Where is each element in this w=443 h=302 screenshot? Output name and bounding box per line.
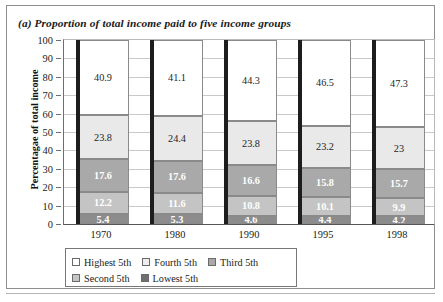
y-axis-tick-mark (56, 224, 61, 225)
legend-swatch-icon (142, 258, 150, 266)
bar-segment[interactable]: 23.2 (298, 126, 351, 169)
bar-segment[interactable]: 4.2 (372, 216, 425, 224)
bar-segment[interactable]: 17.6 (150, 161, 203, 193)
bar-left-shadow (76, 40, 80, 224)
legend-item-fourth-5th[interactable]: Fourth 5th (142, 257, 197, 268)
bar-value-label: 10.8 (242, 200, 260, 211)
bar-segment[interactable]: 23.8 (224, 121, 277, 165)
bar-value-label: 4.2 (393, 216, 406, 224)
bar-segment[interactable]: 23.8 (76, 115, 129, 159)
bar-value-label: 23.8 (242, 138, 260, 149)
legend-label: Second 5th (84, 273, 130, 284)
y-axis-tick-mark (56, 58, 61, 59)
bar-segment[interactable]: 9.9 (372, 198, 425, 216)
legend-label: Lowest 5th (153, 273, 199, 284)
y-axis-tick-label: 60 (43, 108, 53, 119)
legend-row: Second 5thLowest 5th (72, 270, 290, 286)
y-axis-tick-label: 50 (43, 127, 53, 138)
bar-value-label: 12.2 (94, 197, 112, 208)
bar-value-label: 5.3 (171, 214, 184, 224)
y-axis-tick-mark (56, 150, 61, 151)
bar-value-label: 9.9 (393, 202, 406, 213)
bar-column-1980[interactable]: 5.311.617.624.441.1 (150, 40, 203, 224)
bar-value-label: 23.2 (316, 141, 334, 152)
legend-label: Third 5th (220, 257, 258, 268)
y-axis-tick-label: 40 (43, 145, 53, 156)
bar-value-label: 46.5 (316, 77, 334, 88)
x-axis-tick-label-1980: 1980 (140, 229, 210, 240)
bar-segment[interactable]: 4.6 (224, 216, 277, 224)
chart-legend: Highest 5thFourth 5thThird 5thSecond 5th… (65, 248, 297, 287)
bar-value-label: 4.4 (319, 216, 332, 224)
bar-value-label: 5.4 (97, 214, 110, 224)
y-axis-tick-mark (56, 132, 61, 133)
bar-segment[interactable]: 12.2 (76, 192, 129, 214)
bar-segment[interactable]: 46.5 (298, 40, 351, 126)
bar-segment[interactable]: 47.3 (372, 40, 425, 127)
bar-segment[interactable]: 44.3 (224, 40, 277, 122)
legend-swatch-icon (72, 258, 80, 266)
y-axis-tick-mark (56, 77, 61, 78)
bar-value-label: 10.1 (316, 201, 334, 212)
bar-value-label: 41.1 (168, 72, 186, 83)
y-axis-tick-label: 100 (37, 35, 53, 46)
figure-frame: (a) Proportion of total income paid to f… (6, 5, 435, 289)
figure-underline (6, 293, 435, 294)
bar-value-label: 23.8 (94, 132, 112, 143)
y-axis-tick-label: 10 (43, 200, 53, 211)
bar-value-label: 15.7 (390, 178, 408, 189)
plot-area: 5.412.217.623.840.95.311.617.624.441.14.… (63, 39, 435, 225)
bar-segment[interactable]: 5.3 (150, 214, 203, 224)
bar-column-1995[interactable]: 4.410.115.823.246.5 (298, 40, 351, 224)
bar-left-shadow (150, 40, 154, 224)
x-axis-tick-label-1990: 1990 (214, 229, 284, 240)
bar-segment[interactable]: 16.6 (224, 165, 277, 196)
legend-item-lowest-5th[interactable]: Lowest 5th (141, 273, 199, 284)
bar-segment[interactable]: 15.8 (298, 168, 351, 197)
y-axis-tick-label: 20 (43, 182, 53, 193)
bar-value-label: 17.6 (94, 170, 112, 181)
legend-row: Highest 5thFourth 5thThird 5th (72, 254, 290, 270)
bar-segment[interactable]: 5.4 (76, 214, 129, 224)
bar-value-label: 15.8 (316, 177, 334, 188)
legend-label: Highest 5th (84, 257, 131, 268)
bar-segment[interactable]: 40.9 (76, 40, 129, 115)
legend-swatch-icon (208, 258, 216, 266)
bar-segment[interactable]: 23 (372, 127, 425, 169)
bar-left-shadow (224, 40, 228, 224)
y-axis-tick-label: 0 (48, 219, 53, 230)
bar-segment[interactable]: 11.6 (150, 193, 203, 214)
x-axis-tick-label-1998: 1998 (362, 229, 432, 240)
bar-left-shadow (298, 40, 302, 224)
x-axis-tick-label-1995: 1995 (288, 229, 358, 240)
bar-segment[interactable]: 4.4 (298, 216, 351, 224)
bar-left-shadow (372, 40, 376, 224)
bar-value-label: 44.3 (242, 75, 260, 86)
bar-segment[interactable]: 17.6 (76, 159, 129, 191)
legend-item-third-5th[interactable]: Third 5th (208, 257, 258, 268)
bar-segment[interactable]: 41.1 (150, 40, 203, 116)
bar-value-label: 23 (394, 143, 404, 154)
bar-segment[interactable]: 10.1 (298, 197, 351, 216)
bar-column-1998[interactable]: 4.29.915.72347.3 (372, 40, 425, 224)
bar-value-label: 17.6 (168, 171, 186, 182)
y-axis-tick-mark (56, 40, 61, 41)
legend-swatch-icon (72, 274, 80, 282)
bar-segment[interactable]: 10.8 (224, 196, 277, 216)
y-axis-tick-mark (56, 114, 61, 115)
bar-column-1990[interactable]: 4.610.816.623.844.3 (224, 40, 277, 224)
y-axis-tick-mark (56, 187, 61, 188)
bar-segment[interactable]: 24.4 (150, 116, 203, 161)
bar-value-label: 40.9 (94, 72, 112, 83)
bar-segment[interactable]: 15.7 (372, 169, 425, 198)
bar-value-label: 4.6 (245, 216, 258, 224)
legend-label: Fourth 5th (154, 257, 197, 268)
y-axis-tick-label: 90 (43, 53, 53, 64)
x-axis-tick-label-1970: 1970 (66, 229, 136, 240)
legend-item-second-5th[interactable]: Second 5th (72, 273, 130, 284)
y-axis-tick-mark (56, 169, 61, 170)
bar-column-1970[interactable]: 5.412.217.623.840.9 (76, 40, 129, 224)
bar-value-label: 24.4 (168, 133, 186, 144)
legend-item-highest-5th[interactable]: Highest 5th (72, 257, 131, 268)
legend-swatch-icon (141, 274, 149, 282)
